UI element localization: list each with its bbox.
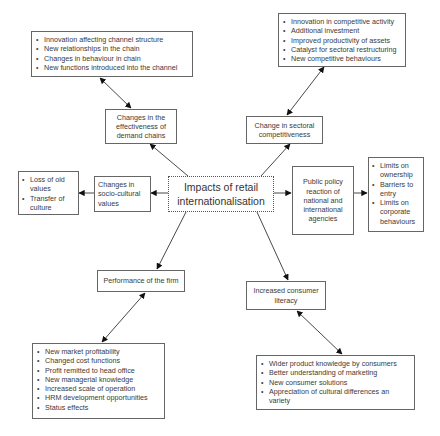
arrow-center-to-sectoral <box>261 144 290 176</box>
node-label: Increased consumer literacy <box>250 286 322 305</box>
list-item: Catalyst for sectoral restructuring <box>291 45 401 54</box>
list-item: Innovation affecting channel structure <box>44 35 188 44</box>
list-item: New consumer solutions <box>269 378 410 387</box>
socio-cultural-list: Loss of old values Transfer of culture <box>18 171 79 215</box>
list-item: Innovation in competitive activity <box>291 17 401 26</box>
list-item: Wider product knowledge by consumers <box>269 359 410 368</box>
list-item: Limits on ownership <box>380 161 420 180</box>
node-label: Change in sectoral competitiveness <box>250 121 319 140</box>
consumer-list: Wider product knowledge by consumers Bet… <box>256 355 415 410</box>
list-item: Barriers to entry <box>380 180 420 199</box>
arrow-center-to-demand-chains <box>150 144 188 176</box>
list-item: New relationships in the chain <box>44 44 188 53</box>
list-item: HRM development opportunities <box>45 393 160 402</box>
central-topic-label: Impacts of retail internationalisation <box>177 181 265 207</box>
list-item: Better understanding of marketing <box>269 368 410 377</box>
arrow-demand-chains-list <box>100 78 131 108</box>
list-item: Additional investment <box>291 26 401 35</box>
list-item: Changes in behaviour in chain <box>44 54 188 63</box>
node-consumer-literacy: Increased consumer literacy <box>246 281 326 310</box>
list-item: Appreciation of cultural differences an … <box>269 387 410 406</box>
node-demand-chains: Changes in the effectiveness of demand c… <box>105 109 177 144</box>
demand-chains-list: Innovation affecting channel structure N… <box>31 31 193 77</box>
node-socio-cultural: Changes in socio-cultural values <box>94 176 151 212</box>
node-label: Changes in socio-cultural values <box>98 180 147 208</box>
performance-list: New market profitability Changed cost fu… <box>32 343 165 419</box>
sectoral-list: Innovation in competitive activity Addit… <box>278 13 406 67</box>
node-sectoral-competitiveness: Change in sectoral competitiveness <box>246 116 323 144</box>
arrow-center-to-performance <box>157 212 186 269</box>
node-label: Changes in the effectiveness of demand c… <box>109 113 173 141</box>
list-item: Profit remitted to head office <box>45 366 160 375</box>
node-label: Performance of the firm <box>103 276 178 285</box>
list-item: Status effects <box>45 403 160 412</box>
arrow-center-to-consumer <box>257 212 288 280</box>
list-item: New market profitability <box>45 347 160 356</box>
list-item: New managerial knowledge <box>45 375 160 384</box>
node-performance-of-firm: Performance of the firm <box>97 270 185 292</box>
list-item: Changed cost functions <box>45 356 160 365</box>
node-label: Public policy reaction of national and i… <box>296 177 350 223</box>
arrow-sectoral-list <box>287 67 324 115</box>
list-item: Loss of old values <box>30 175 75 194</box>
arrow-performance-list <box>102 293 145 342</box>
list-item: New functions introduced into the channe… <box>44 63 188 72</box>
list-item: New competitive behaviours <box>291 54 401 63</box>
list-item: Transfer of culture <box>30 194 75 213</box>
public-policy-list: Limits on ownership Barriers to entry Li… <box>368 157 424 232</box>
list-item: Limits on corporate behaviours <box>380 198 420 226</box>
list-item: Improved productivity of assets <box>291 36 401 45</box>
node-public-policy: Public policy reaction of national and i… <box>292 166 354 235</box>
arrow-consumer-list <box>297 311 342 354</box>
central-topic: Impacts of retail internationalisation <box>168 176 274 212</box>
list-item: Increased scale of operation <box>45 384 160 393</box>
